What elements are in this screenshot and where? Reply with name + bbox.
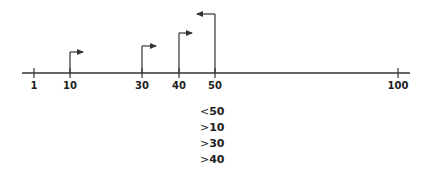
tick-label: 10	[63, 80, 77, 91]
condition-gt-10: >10	[200, 120, 240, 136]
arrowhead-right-icon	[77, 49, 84, 55]
conditions-list: <50 >10 >30 >40	[200, 104, 240, 168]
tick-label: 1	[31, 80, 38, 91]
tick-label: 50	[208, 80, 222, 91]
condition-gt-40: >40	[200, 152, 240, 168]
arrowhead-right-icon	[186, 30, 193, 36]
condition-gt-30: >30	[200, 136, 240, 152]
tick-label: 100	[388, 80, 409, 91]
tick-label: 30	[135, 80, 149, 91]
condition-lt-50: <50	[200, 104, 240, 120]
arrowhead-right-icon	[150, 43, 157, 49]
tick-label: 40	[172, 80, 186, 91]
arrowhead-left-icon	[196, 11, 203, 17]
